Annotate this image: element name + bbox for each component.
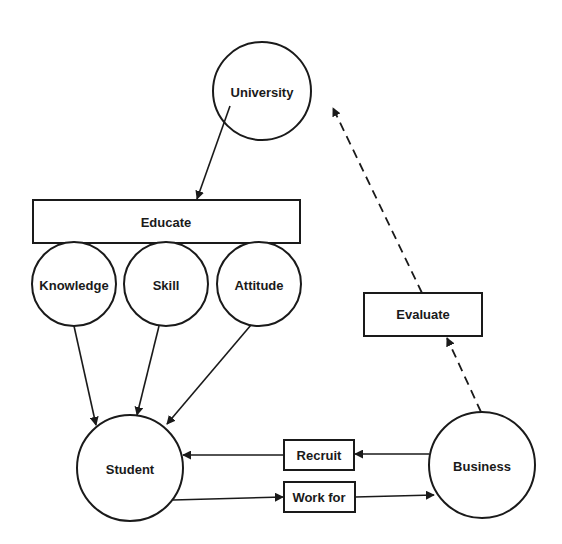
node-student: Student: [77, 415, 183, 521]
education-business-diagram: University Educate Knowledge Skill Attit…: [0, 0, 562, 544]
node-educate: Educate: [33, 200, 300, 243]
node-attitude-label: Attitude: [234, 278, 283, 293]
edge-skill-to-student: [137, 326, 159, 415]
node-educate-label: Educate: [141, 215, 192, 230]
node-knowledge-label: Knowledge: [39, 278, 108, 293]
node-evaluate: Evaluate: [364, 293, 482, 336]
node-work-for: Work for: [284, 482, 355, 512]
edge-university-to-educate: [197, 106, 230, 199]
node-knowledge: Knowledge: [32, 242, 116, 326]
node-evaluate-label: Evaluate: [396, 307, 449, 322]
edge-knowledge-to-student: [74, 326, 96, 425]
edge-student-to-work-for: [173, 497, 283, 500]
node-university-label: University: [231, 85, 295, 100]
node-recruit-label: Recruit: [297, 448, 342, 463]
node-business-label: Business: [453, 459, 511, 474]
edge-work-for-to-business: [355, 495, 434, 497]
node-student-label: Student: [106, 462, 155, 477]
edge-evaluate-to-university: [333, 108, 422, 293]
node-skill-label: Skill: [153, 278, 180, 293]
node-business: Business: [429, 412, 535, 518]
node-university: University: [213, 42, 311, 140]
node-work-for-label: Work for: [292, 490, 345, 505]
node-skill: Skill: [124, 242, 208, 326]
node-recruit: Recruit: [284, 440, 354, 470]
edge-business-to-evaluate: [447, 338, 481, 412]
node-attitude: Attitude: [217, 242, 301, 326]
edge-attitude-to-student: [167, 325, 251, 424]
